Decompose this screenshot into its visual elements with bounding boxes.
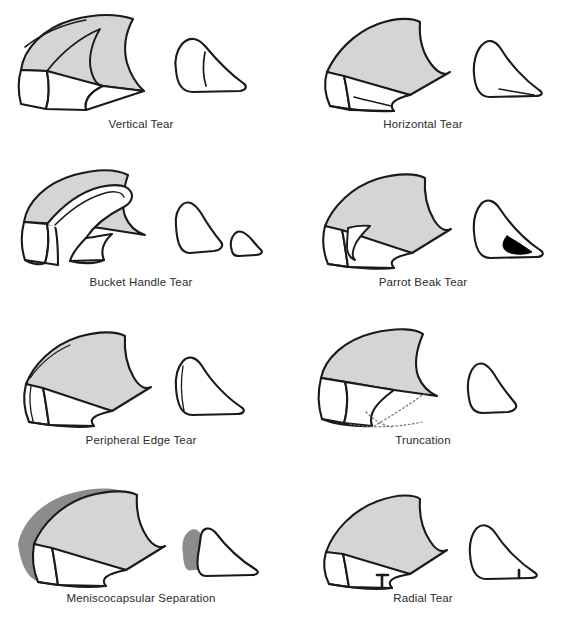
vertical-tear-illustration bbox=[0, 0, 282, 126]
cross-section-truncated-wedge bbox=[468, 363, 516, 413]
cross-section-wedge bbox=[197, 528, 257, 576]
anterior-horn-face bbox=[19, 70, 49, 109]
bucket-handle-tear-illustration bbox=[0, 158, 282, 284]
detached-inner-fragment bbox=[70, 234, 112, 261]
panel-parrot-beak-tear: Parrot Beak Tear bbox=[282, 158, 564, 316]
cross-section-wedge bbox=[470, 525, 537, 579]
peripheral-edge-tear-illustration bbox=[0, 316, 282, 442]
cross-section-wedge bbox=[176, 358, 244, 415]
panel-bucket-handle-tear: Bucket Handle Tear bbox=[0, 158, 282, 316]
panel-vertical-tear: Vertical Tear bbox=[0, 0, 282, 158]
cross-section-displaced-fragment bbox=[231, 232, 262, 256]
cross-section-peripheral-fragment bbox=[176, 202, 222, 253]
panel-label: Meniscocapsular Separation bbox=[0, 592, 282, 604]
anterior-horn-face bbox=[319, 378, 347, 423]
panel-label: Truncation bbox=[282, 434, 564, 446]
panel-label: Parrot Beak Tear bbox=[282, 276, 564, 288]
horizontal-tear-illustration bbox=[282, 0, 564, 126]
panel-label: Peripheral Edge Tear bbox=[0, 434, 282, 446]
meniscus-underside bbox=[344, 382, 394, 426]
meniscal-tear-figure: Vertical Tear Horizontal Tear bbox=[0, 0, 564, 634]
panel-label: Radial Tear bbox=[282, 592, 564, 604]
panel-label: Horizontal Tear bbox=[282, 118, 564, 130]
truncation-illustration bbox=[282, 316, 564, 442]
panel-label: Bucket Handle Tear bbox=[0, 276, 282, 288]
panel-truncation: Truncation bbox=[282, 316, 564, 474]
panel-label: Vertical Tear bbox=[0, 118, 282, 130]
parrot-beak-tear-illustration bbox=[282, 158, 564, 284]
panel-horizontal-tear: Horizontal Tear bbox=[282, 0, 564, 158]
anterior-horn-face bbox=[22, 222, 48, 263]
panel-peripheral-edge-tear: Peripheral Edge Tear bbox=[0, 316, 282, 474]
meniscocapsular-separation-illustration bbox=[0, 474, 282, 600]
panel-radial-tear: Radial Tear bbox=[282, 474, 564, 632]
cross-section-wedge bbox=[474, 41, 542, 97]
cross-section-wedge bbox=[175, 39, 245, 92]
radial-tear-illustration bbox=[282, 474, 564, 600]
panel-meniscocapsular-separation: Meniscocapsular Separation bbox=[0, 474, 282, 632]
